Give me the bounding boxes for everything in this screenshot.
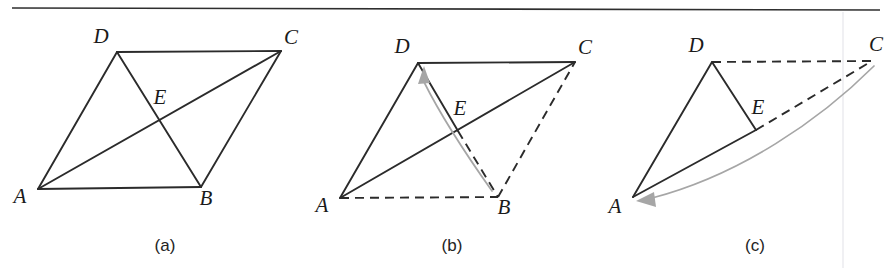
vertex-label-b-C: C [578,35,593,59]
vertex-label-a-D: D [92,24,108,48]
segment-AD-solid [340,63,418,198]
segment-AD-solid [633,62,712,197]
motion-arc-fold-c-onto-a [652,66,874,198]
vertex-label-b-B: B [498,195,511,219]
vertex-label-c-E: E [751,95,765,119]
vertex-label-a-B: B [200,186,213,210]
segment-DE-solid [712,62,756,130]
geometry-figure-canvas: ABCDE(a)ABCDE(b)ACDE(c) [0,0,895,275]
vertex-label-b-E: E [453,96,467,120]
vertex-label-b-D: D [393,34,409,58]
panel-caption-b: (b) [442,236,463,255]
vertex-label-b-A: A [314,193,329,217]
segment-DC-solid [418,62,575,63]
panel-a: ABCDE(a) [12,24,299,255]
vertex-label-a-E: E [153,85,167,109]
vertex-label-a-C: C [284,25,299,49]
segment-EC-dashed [756,61,872,130]
vertex-label-c-D: D [687,33,703,57]
panel-c: ACDE(c) [607,32,884,255]
panels-layer: ABCDE(a)ABCDE(b)ACDE(c) [12,24,884,255]
panel-b: ABCDE(b) [314,34,593,255]
panel-caption-a: (a) [155,236,176,255]
segment-AE-solid [633,130,756,197]
segment-BC-dashed [498,62,575,197]
segment-CD-solid [117,51,281,52]
vertex-label-c-A: A [607,194,622,218]
segment-AB-dashed [340,197,498,198]
segment-BC-solid [201,51,281,187]
vertex-label-a-A: A [12,184,27,208]
panel-caption-c: (c) [745,236,765,255]
segment-DB-solid [117,52,201,187]
segment-EB-dashed [458,131,498,197]
segment-DA-solid [38,52,117,189]
figure-root: ABCDE(a)ABCDE(b)ACDE(c) [0,0,895,275]
top-horizontal-rule [12,8,880,10]
vertex-label-c-C: C [869,32,884,56]
motion-arrowhead-fold-b-onto-d [418,66,430,84]
segment-DC-dashed [712,61,872,62]
segment-AB-solid [38,187,201,189]
